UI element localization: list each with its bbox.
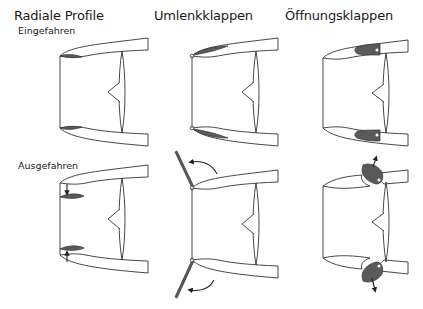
diagram-opening-retracted <box>323 40 408 146</box>
deflector-flap-bottom-open <box>175 260 194 298</box>
diagram-deflector-retracted <box>190 38 278 146</box>
radial-profile-bottom-extended <box>60 246 84 251</box>
curved-arrow-down-icon <box>190 280 214 291</box>
curved-arrow-up-icon <box>191 162 217 175</box>
diagram-deflector-extended <box>175 151 278 298</box>
diagram-radial-extended <box>60 165 148 273</box>
radial-profile-top-extended <box>60 194 84 199</box>
engine-cone <box>108 82 120 102</box>
diagram-canvas <box>0 0 423 309</box>
deflector-flap-top-open <box>175 151 194 188</box>
diagram-radial-retracted <box>60 38 148 146</box>
diagram-opening-extended <box>323 158 408 290</box>
